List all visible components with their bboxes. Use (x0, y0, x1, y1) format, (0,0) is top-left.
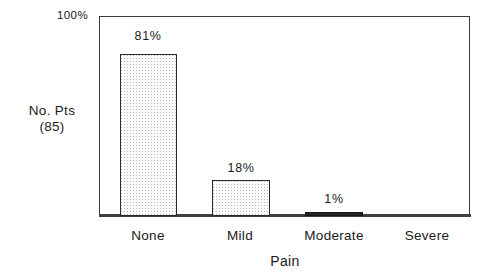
y-axis-label-line-1: No. Pts (29, 103, 75, 118)
y-axis-label-line-2: (85) (14, 119, 90, 135)
category-label-none: None (131, 228, 164, 244)
value-label-none: 81% (135, 29, 162, 43)
value-label-moderate: 1% (324, 192, 343, 206)
y-axis-tick-label-100: 100% (57, 9, 88, 22)
category-label-moderate: Moderate (304, 228, 363, 244)
x-axis-title: Pain (270, 253, 300, 269)
y-axis-label: No. Pts (85) (14, 103, 90, 134)
bar-chart-figure: 100% No. Pts (85) 81% 18% 1% None Mild M… (0, 0, 482, 275)
value-label-mild: 18% (228, 161, 255, 175)
category-label-severe: Severe (405, 228, 450, 244)
bar-mild (212, 180, 270, 216)
bar-moderate (305, 212, 363, 216)
bar-none (120, 54, 177, 216)
category-label-mild: Mild (227, 228, 253, 244)
